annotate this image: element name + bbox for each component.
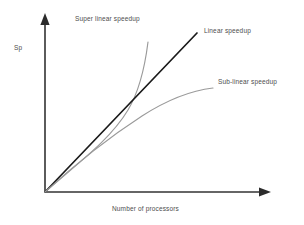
y-axis-label: Sp — [14, 45, 22, 52]
curve-label-linear: Linear speedup — [204, 28, 251, 35]
curve-label-super-linear: Super linear speedup — [75, 16, 140, 23]
y-axis-arrowhead-icon — [40, 13, 49, 25]
curve-label-sub-linear: Sub-linear speedup — [218, 79, 277, 86]
curve-linear — [45, 33, 197, 192]
curve-super-linear — [45, 42, 148, 192]
speedup-figure: Sp Number of processors Super linear spe… — [0, 0, 304, 225]
axes-group — [40, 13, 271, 197]
curves-group — [45, 33, 213, 192]
plot-canvas — [0, 0, 304, 225]
x-axis-label: Number of processors — [112, 206, 179, 213]
x-axis-arrowhead-icon — [259, 187, 271, 196]
